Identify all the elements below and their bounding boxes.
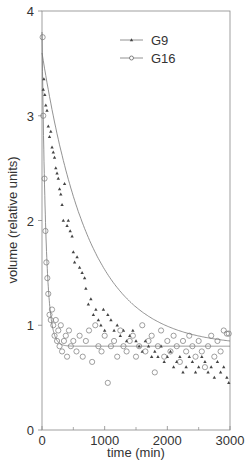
data-point-g9 bbox=[102, 308, 105, 311]
data-point-g9 bbox=[191, 360, 194, 363]
data-point-g9 bbox=[94, 308, 97, 311]
y-tick-label: 4 bbox=[27, 4, 34, 19]
data-point-g16 bbox=[83, 338, 88, 343]
data-point-g16 bbox=[40, 35, 45, 40]
data-point-g9 bbox=[50, 145, 53, 148]
data-point-g9 bbox=[206, 371, 209, 374]
data-point-g16 bbox=[63, 333, 68, 338]
axis-ticks: 010002000300001234 bbox=[27, 4, 245, 448]
data-point-g16 bbox=[90, 359, 95, 364]
legend-item-g9: G9 bbox=[120, 33, 168, 48]
data-point-g9 bbox=[53, 156, 56, 159]
legend-label-g16: G16 bbox=[151, 51, 176, 66]
data-point-g16 bbox=[71, 338, 76, 343]
legend: G9 G16 bbox=[120, 33, 176, 66]
data-point-g9 bbox=[89, 297, 92, 300]
data-point-g16 bbox=[196, 338, 201, 343]
data-point-g16 bbox=[143, 349, 148, 354]
data-point-g16 bbox=[86, 328, 91, 333]
data-point-g16 bbox=[221, 328, 226, 333]
data-point-g9 bbox=[225, 376, 228, 379]
data-point-g16 bbox=[162, 354, 167, 359]
data-point-g9 bbox=[172, 365, 175, 368]
data-point-g9 bbox=[181, 371, 184, 374]
data-point-g9 bbox=[45, 109, 48, 112]
data-point-g16 bbox=[56, 328, 61, 333]
data-point-g9 bbox=[70, 234, 73, 237]
data-point-g16 bbox=[77, 333, 82, 338]
data-point-g16 bbox=[209, 333, 214, 338]
data-point-g16 bbox=[61, 338, 66, 343]
data-point-g9 bbox=[153, 350, 156, 353]
data-point-g9 bbox=[67, 219, 70, 222]
data-point-g9 bbox=[44, 103, 47, 106]
data-point-g16 bbox=[127, 338, 132, 343]
y-tick-label: 0 bbox=[27, 423, 34, 438]
data-point-g9 bbox=[52, 151, 55, 154]
y-tick-label: 1 bbox=[27, 318, 34, 333]
data-point-g9 bbox=[197, 365, 200, 368]
data-point-g9 bbox=[156, 355, 159, 358]
data-point-g16 bbox=[130, 333, 135, 338]
data-point-g9 bbox=[60, 203, 63, 206]
data-point-g9 bbox=[49, 130, 52, 133]
data-point-g16 bbox=[165, 338, 170, 343]
x-axis-label: time (min) bbox=[107, 445, 165, 460]
legend-label-g9: G9 bbox=[151, 33, 168, 48]
fit-curve-g9 bbox=[42, 53, 230, 341]
data-point-g9 bbox=[72, 250, 75, 253]
data-point-g16 bbox=[74, 349, 79, 354]
data-point-g16 bbox=[111, 338, 116, 343]
data-point-g16 bbox=[146, 338, 151, 343]
data-point-g9 bbox=[97, 318, 100, 321]
data-point-g9 bbox=[48, 135, 51, 138]
data-point-g9 bbox=[58, 187, 61, 190]
data-point-g16 bbox=[152, 370, 157, 375]
data-point-g16 bbox=[115, 354, 120, 359]
data-point-g16 bbox=[80, 354, 85, 359]
data-point-g9 bbox=[59, 193, 62, 196]
data-point-g9 bbox=[203, 360, 206, 363]
data-point-g16 bbox=[59, 349, 64, 354]
data-point-g9 bbox=[131, 329, 134, 332]
data-point-g9 bbox=[87, 303, 90, 306]
data-point-g9 bbox=[112, 329, 115, 332]
data-point-g9 bbox=[106, 313, 109, 316]
data-point-g16 bbox=[64, 354, 69, 359]
data-point-g16 bbox=[199, 349, 204, 354]
data-point-g9 bbox=[99, 323, 102, 326]
data-point-g9 bbox=[43, 93, 46, 96]
data-point-g9 bbox=[178, 355, 181, 358]
legend-item-g16: G16 bbox=[120, 51, 176, 66]
data-point-g9 bbox=[69, 229, 72, 232]
data-point-g9 bbox=[116, 323, 119, 326]
data-point-g16 bbox=[118, 328, 123, 333]
chart: 010002000300001234 time (min) volume (re… bbox=[0, 0, 252, 474]
data-point-g9 bbox=[216, 360, 219, 363]
data-point-g16 bbox=[57, 344, 62, 349]
data-point-g9 bbox=[150, 355, 153, 358]
x-tick-label: 0 bbox=[38, 433, 45, 448]
data-point-g9 bbox=[219, 371, 222, 374]
data-point-g16 bbox=[193, 354, 198, 359]
data-point-g16 bbox=[47, 312, 52, 317]
data-point-g9 bbox=[200, 355, 203, 358]
data-point-g9 bbox=[75, 255, 78, 258]
plot-frame bbox=[42, 11, 230, 430]
data-point-g16 bbox=[99, 349, 104, 354]
data-point-g9 bbox=[83, 276, 86, 279]
data-point-g16 bbox=[93, 323, 98, 328]
fit-curves bbox=[42, 32, 230, 346]
data-point-g9 bbox=[84, 287, 87, 290]
data-point-g16 bbox=[184, 349, 189, 354]
y-axis-label: volume (relative units) bbox=[5, 156, 20, 283]
data-point-g9 bbox=[54, 166, 57, 169]
data-point-g9 bbox=[109, 318, 112, 321]
data-point-g16 bbox=[133, 354, 138, 359]
data-point-g9 bbox=[188, 355, 191, 358]
data-point-g9 bbox=[55, 172, 58, 175]
data-point-g9 bbox=[163, 360, 166, 363]
x-tick-label: 3000 bbox=[216, 433, 245, 448]
data-point-g16 bbox=[44, 260, 49, 265]
data-point-g9 bbox=[194, 371, 197, 374]
